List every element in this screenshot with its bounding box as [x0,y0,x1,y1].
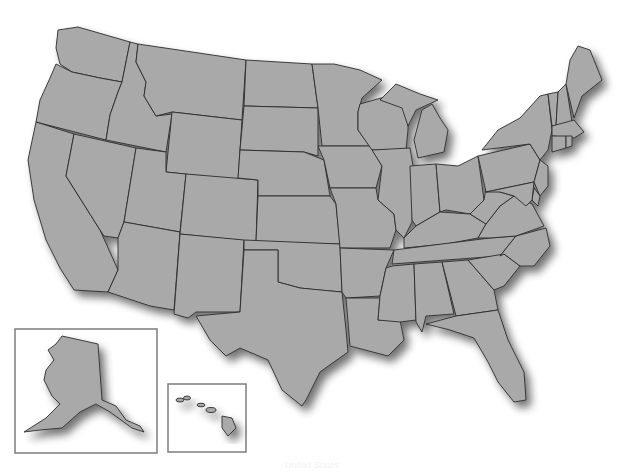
state-ohio[interactable] [436,156,484,214]
island-oahu[interactable] [184,396,191,400]
state-rhode-island[interactable] [566,136,572,148]
state-florida[interactable] [426,310,526,402]
hawaii-inset-frame [168,384,246,452]
us-map [0,0,624,476]
state-maine[interactable] [566,46,602,118]
state-colorado[interactable] [180,174,258,242]
state-montana[interactable] [136,44,246,120]
island-kauai[interactable] [176,398,184,402]
state-kansas[interactable] [256,196,340,244]
state-connecticut[interactable] [552,136,566,152]
state-south-dakota[interactable] [240,106,318,156]
island-molokai[interactable] [197,403,205,407]
map-caption: United States [0,460,624,470]
island-maui[interactable] [206,408,216,413]
state-michigan[interactable] [414,104,448,158]
state-wyoming[interactable] [166,112,242,180]
alaska-inset [15,329,157,453]
state-north-dakota[interactable] [244,60,318,108]
state-arizona[interactable] [108,222,180,310]
hawaii-inset [168,384,246,452]
state-new-mexico[interactable] [174,234,244,318]
